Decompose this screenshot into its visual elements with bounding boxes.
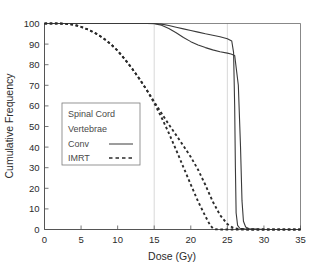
legend-label-spinal-cord: Spinal Cord — [68, 109, 115, 119]
chart-figure: 05101520253035 0102030405060708090100 Do… — [0, 0, 320, 266]
x-tick-label-0: 0 — [42, 234, 47, 245]
y-tick-label-40: 40 — [29, 142, 40, 153]
x-tick-label-15: 15 — [149, 234, 160, 245]
y-tick-label-90: 90 — [29, 39, 40, 50]
y-tick-label-100: 100 — [24, 18, 40, 29]
y-tick-label-50: 50 — [29, 121, 40, 132]
x-tick-label-35: 35 — [295, 234, 306, 245]
y-tick-label-80: 80 — [29, 59, 40, 70]
x-tick-label-10: 10 — [112, 234, 123, 245]
dvh-line-chart: 05101520253035 0102030405060708090100 Do… — [0, 0, 320, 266]
legend-label-vertebrae: Vertebrae — [68, 124, 107, 134]
y-tick-label-20: 20 — [29, 183, 40, 194]
y-tick-label-30: 30 — [29, 162, 40, 173]
chart-background — [0, 0, 320, 266]
x-tick-label-30: 30 — [259, 234, 270, 245]
x-tick-label-20: 20 — [185, 234, 196, 245]
legend-label-conv: Conv — [68, 139, 90, 149]
y-tick-label-10: 10 — [29, 203, 40, 214]
y-tick-label-0: 0 — [34, 224, 39, 235]
y-tick-label-60: 60 — [29, 100, 40, 111]
x-tick-label-25: 25 — [222, 234, 233, 245]
x-tick-label-5: 5 — [78, 234, 83, 245]
y-axis-title: Cumulative Frequency — [3, 73, 15, 179]
x-axis-title: Dose (Gy) — [148, 250, 196, 262]
y-tick-label-70: 70 — [29, 80, 40, 91]
chart-legend: Spinal Cord Vertebrae Conv IMRT — [62, 103, 140, 165]
legend-label-imrt: IMRT — [68, 153, 90, 163]
